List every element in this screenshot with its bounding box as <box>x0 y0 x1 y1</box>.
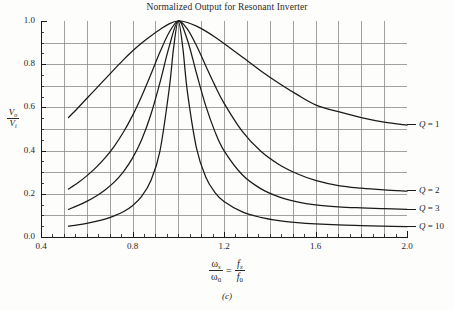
curve-q-1 <box>68 21 407 125</box>
x-axis-label-left-num-sub: s <box>218 263 221 270</box>
x-axis-label-right-num-sub: s <box>240 263 243 270</box>
curve-q-3 <box>68 21 407 209</box>
curves-layer <box>68 21 416 227</box>
curve-q-10 <box>68 21 407 227</box>
y-tick-label: 1.0 <box>9 15 35 25</box>
y-tick-label: 0.2 <box>9 188 35 198</box>
x-axis-label-left-den: ω <box>211 271 218 282</box>
x-tick-label: 1.2 <box>204 241 244 251</box>
series-label-q-1: Q = 1 <box>419 119 440 129</box>
x-axis-label-equals: = <box>226 265 232 276</box>
series-label-q-10: Q = 10 <box>419 221 444 231</box>
x-axis-label-left-den-sub: 0 <box>218 276 221 283</box>
figure-container: Normalized Output for Resonant Inverter … <box>0 0 454 310</box>
x-axis-label: ωs ω0 = fs f0 <box>0 258 454 284</box>
curve-q-2 <box>68 21 407 191</box>
y-tick-label: 0.4 <box>9 145 35 155</box>
x-tick-label: 0.8 <box>113 241 153 251</box>
x-tick-label: 1.6 <box>296 241 336 251</box>
series-label-q-3: Q = 3 <box>419 203 440 213</box>
figure-caption: (c) <box>0 291 454 301</box>
y-tick-label: 0.8 <box>9 58 35 68</box>
x-tick-label: 2.0 <box>387 241 427 251</box>
series-label-q-2: Q = 2 <box>419 185 440 195</box>
x-tick-label: 0.4 <box>21 241 61 251</box>
y-tick-label: 0.6 <box>9 101 35 111</box>
y-tick-label: 0.0 <box>9 231 35 241</box>
x-axis-label-right-den-sub: 0 <box>240 276 243 283</box>
grid-layer <box>41 21 407 237</box>
